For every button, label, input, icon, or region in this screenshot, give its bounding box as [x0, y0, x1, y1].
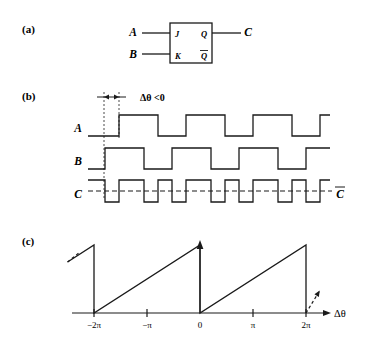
input-label-a: A [128, 26, 137, 38]
pin-label-j: J [174, 29, 180, 39]
panel-label-a: (a) [22, 23, 35, 36]
trace-label-a: A [73, 122, 82, 134]
pin-label-qbar: Q [201, 51, 207, 61]
trace-label-cbar: C [336, 188, 344, 200]
tick-label-zero: 0 [198, 320, 203, 330]
pin-label-q: Q [201, 29, 207, 39]
panel-label-c: (c) [22, 235, 35, 248]
tick-label-2pi: 2π [301, 320, 311, 330]
x-axis-label: Δθ [334, 308, 346, 319]
input-label-b: B [128, 48, 137, 60]
tick-label-pi: π [251, 320, 256, 330]
trace-label-b: B [73, 155, 82, 167]
trace-label-c: C [74, 188, 82, 200]
tick-label-negpi: −π [142, 320, 152, 330]
panel-label-b: (b) [22, 90, 36, 103]
tick-label-neg2pi: −2π [87, 320, 102, 330]
output-label-c: C [244, 26, 252, 38]
phase-annotation-label: Δθ <0 [140, 92, 165, 103]
figure-root: (a) (b) (c) A B C J K Q Q Δθ <0 A B C [0, 0, 370, 351]
